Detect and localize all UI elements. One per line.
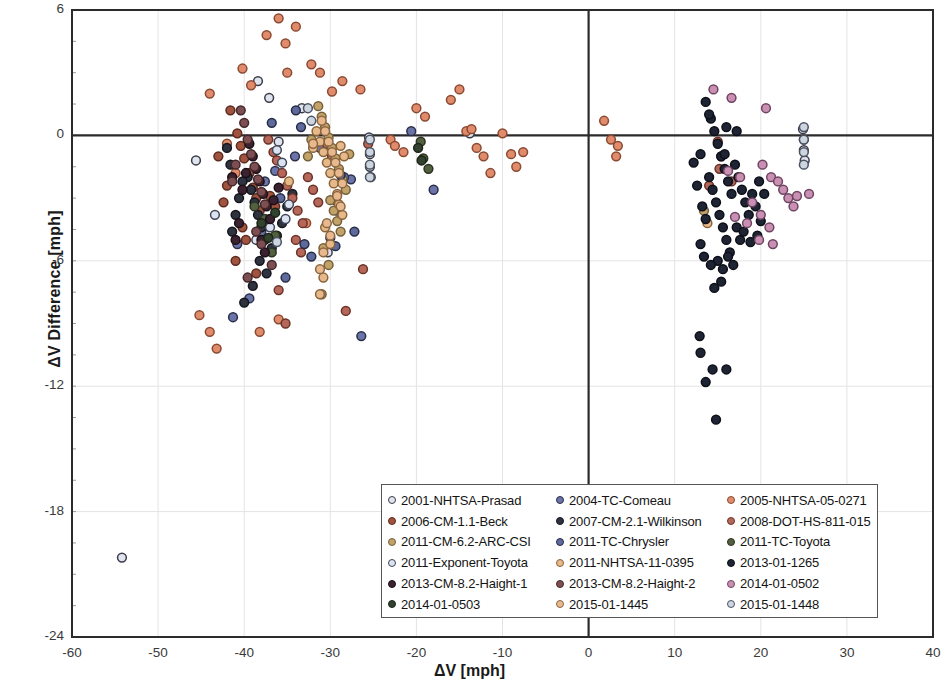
legend-item[interactable]: 2004-TC-Comeau bbox=[556, 493, 727, 508]
legend-marker-icon bbox=[556, 559, 564, 567]
data-point bbox=[319, 248, 328, 257]
legend-item[interactable]: 2013-CM-8.2-Haight-2 bbox=[556, 576, 727, 591]
data-point bbox=[231, 210, 240, 219]
data-point bbox=[266, 223, 275, 232]
data-point bbox=[238, 185, 247, 194]
data-point bbox=[319, 273, 328, 282]
data-point bbox=[309, 185, 318, 194]
data-point bbox=[765, 223, 774, 232]
legend-grid: 2001-NHTSA-Prasad2004-TC-Comeau2005-NHTS… bbox=[388, 490, 873, 615]
legend-item[interactable]: 2005-NHTSA-05-0271 bbox=[727, 493, 873, 508]
legend-marker-icon bbox=[556, 580, 564, 588]
data-point bbox=[336, 202, 345, 211]
legend-label: 2007-CM-2.1-Wilkinson bbox=[569, 514, 702, 529]
data-point bbox=[710, 284, 719, 293]
data-point bbox=[715, 210, 724, 219]
data-point bbox=[231, 256, 240, 265]
data-point bbox=[281, 39, 290, 48]
data-point bbox=[321, 127, 330, 136]
data-point bbox=[412, 104, 421, 113]
data-point bbox=[519, 148, 528, 157]
data-point bbox=[744, 210, 753, 219]
legend-marker-icon bbox=[556, 496, 564, 504]
legend-marker-icon bbox=[388, 496, 396, 504]
data-point bbox=[748, 198, 757, 207]
data-point bbox=[233, 129, 242, 138]
legend-item[interactable]: 2011-CM-6.2-ARC-CSI bbox=[388, 534, 556, 549]
data-point bbox=[724, 167, 733, 176]
data-point bbox=[366, 160, 375, 169]
data-point bbox=[265, 93, 274, 102]
data-point bbox=[118, 553, 127, 562]
data-point bbox=[366, 148, 375, 157]
data-point bbox=[774, 177, 783, 186]
legend-item[interactable]: 2013-01-1265 bbox=[727, 555, 873, 570]
data-point bbox=[779, 185, 788, 194]
data-point bbox=[291, 152, 300, 161]
data-point bbox=[297, 123, 306, 132]
data-point bbox=[708, 365, 717, 374]
data-point bbox=[267, 261, 276, 270]
data-point bbox=[799, 148, 808, 157]
data-point bbox=[424, 164, 433, 173]
legend-item[interactable]: 2006-CM-1.1-Beck bbox=[388, 514, 556, 529]
legend-item[interactable]: 2001-NHTSA-Prasad bbox=[388, 493, 556, 508]
legend-item[interactable]: 2011-TC-Toyota bbox=[727, 534, 873, 549]
data-point bbox=[262, 269, 271, 278]
data-point bbox=[359, 265, 368, 274]
legend-label: 2015-01-1445 bbox=[569, 597, 648, 612]
legend-item[interactable]: 2008-DOT-HS-811-015 bbox=[727, 514, 873, 529]
data-point bbox=[737, 185, 746, 194]
legend-item[interactable]: 2015-01-1445 bbox=[556, 597, 727, 612]
data-point bbox=[192, 156, 201, 165]
legend-label: 2011-CM-6.2-ARC-CSI bbox=[401, 534, 531, 549]
data-point bbox=[498, 129, 507, 138]
data-point bbox=[689, 158, 698, 167]
data-point bbox=[724, 177, 733, 186]
legend-item[interactable]: 2013-CM-8.2-Haight-1 bbox=[388, 576, 556, 591]
data-point bbox=[731, 213, 740, 222]
data-point bbox=[805, 190, 814, 199]
data-point bbox=[304, 173, 313, 182]
legend-marker-icon bbox=[556, 600, 564, 608]
data-point bbox=[701, 215, 710, 224]
legend-item[interactable]: 2011-TC-Chrysler bbox=[556, 534, 727, 549]
data-point bbox=[722, 365, 731, 374]
data-point bbox=[328, 148, 337, 157]
legend-item[interactable]: 2007-CM-2.1-Wilkinson bbox=[556, 514, 727, 529]
legend: 2001-NHTSA-Prasad2004-TC-Comeau2005-NHTS… bbox=[381, 484, 878, 618]
legend-label: 2015-01-1448 bbox=[740, 597, 819, 612]
legend-item[interactable]: 2014-01-0502 bbox=[727, 576, 873, 591]
data-point bbox=[257, 187, 266, 196]
data-point bbox=[316, 68, 325, 77]
data-point bbox=[720, 150, 729, 159]
data-point bbox=[314, 102, 323, 111]
legend-item[interactable]: 2011-Exponent-Toyota bbox=[388, 555, 556, 570]
legend-item[interactable]: 2015-01-1448 bbox=[727, 597, 873, 612]
data-point bbox=[260, 248, 269, 257]
data-point bbox=[784, 194, 793, 203]
legend-item[interactable]: 2011-NHTSA-11-0395 bbox=[556, 555, 727, 570]
data-point bbox=[758, 160, 767, 169]
data-point bbox=[281, 273, 290, 282]
data-point bbox=[338, 210, 347, 219]
legend-label: 2004-TC-Comeau bbox=[569, 493, 671, 508]
data-point bbox=[712, 198, 721, 207]
legend-marker-icon bbox=[727, 600, 735, 608]
data-point bbox=[762, 104, 771, 113]
legend-marker-icon bbox=[388, 517, 396, 525]
data-point bbox=[243, 273, 252, 282]
data-point bbox=[247, 81, 256, 90]
data-point bbox=[252, 269, 261, 278]
data-point bbox=[319, 148, 328, 157]
legend-item[interactable]: 2014-01-0503 bbox=[388, 597, 556, 612]
data-point bbox=[331, 158, 340, 167]
data-point bbox=[257, 219, 266, 228]
data-point bbox=[467, 125, 476, 134]
data-point bbox=[696, 150, 705, 159]
legend-marker-icon bbox=[388, 559, 396, 567]
data-point bbox=[291, 236, 300, 245]
data-point bbox=[298, 219, 307, 228]
data-point bbox=[340, 152, 349, 161]
